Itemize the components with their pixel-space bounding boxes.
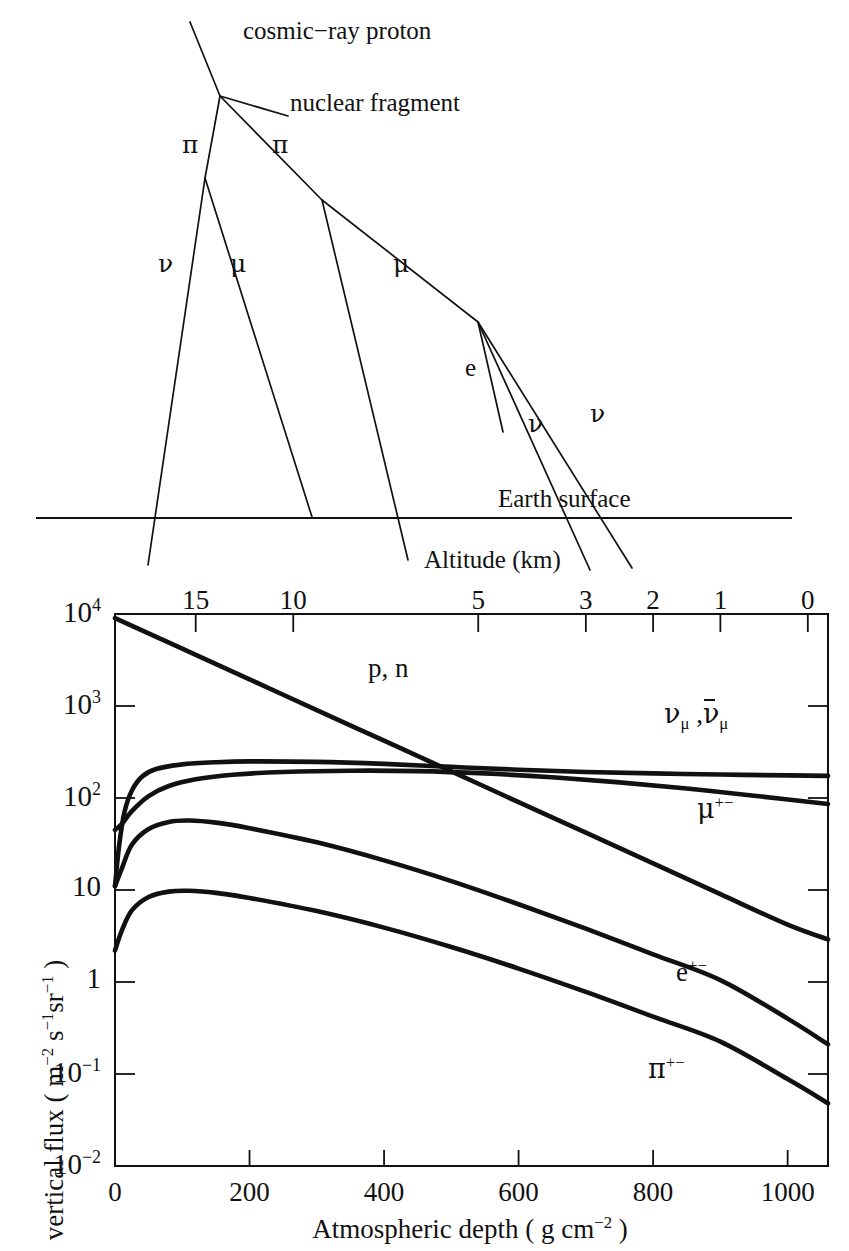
- top-tick-label-10: 10: [280, 587, 307, 614]
- curve-e-: [115, 820, 828, 1044]
- right-axis-ticks: [808, 706, 828, 1074]
- bottom-tick-label-0: 0: [108, 1179, 122, 1206]
- curve-label-nu-mu: νμ ,νμ: [664, 700, 728, 733]
- bottom-tick-label-800: 800: [633, 1179, 674, 1206]
- curve-label-pi: π+−: [648, 1055, 685, 1083]
- left-axis-ticks: [115, 706, 135, 1074]
- bottom-axis-ticks: [115, 1150, 788, 1166]
- bottom-tick-label-400: 400: [364, 1179, 405, 1206]
- flux-curves: [115, 618, 828, 1103]
- y-axis-title: vertical flux ( m−2 s−1sr−1 ): [40, 960, 68, 1241]
- bottom-tick-label-200: 200: [229, 1179, 270, 1206]
- top-tick-label-5: 5: [471, 587, 485, 614]
- top-tick-label-1: 1: [714, 587, 728, 614]
- x-axis-title: Atmospheric depth ( g cm−2 ): [312, 1215, 628, 1243]
- curve-label-mu: μ+−: [697, 795, 733, 823]
- top-tick-label-0: 0: [801, 587, 815, 614]
- bottom-tick-label-600: 600: [498, 1179, 539, 1206]
- top-axis-ticks: [196, 614, 808, 632]
- curve-label-p-n: p, n: [368, 655, 409, 682]
- curve-pi-: [115, 891, 828, 1104]
- cosmic-ray-figure: cosmic−ray proton nuclear fragment π π ν…: [0, 0, 849, 1251]
- bottom-tick-label-1000: 1000: [761, 1179, 815, 1206]
- top-tick-label-15: 15: [182, 587, 209, 614]
- flux-chart-layer: [0, 0, 849, 1251]
- curve-label-e: e+−: [676, 958, 707, 986]
- top-tick-label-3: 3: [579, 587, 593, 614]
- top-tick-label-2: 2: [646, 587, 660, 614]
- curve-p-n: [115, 618, 828, 939]
